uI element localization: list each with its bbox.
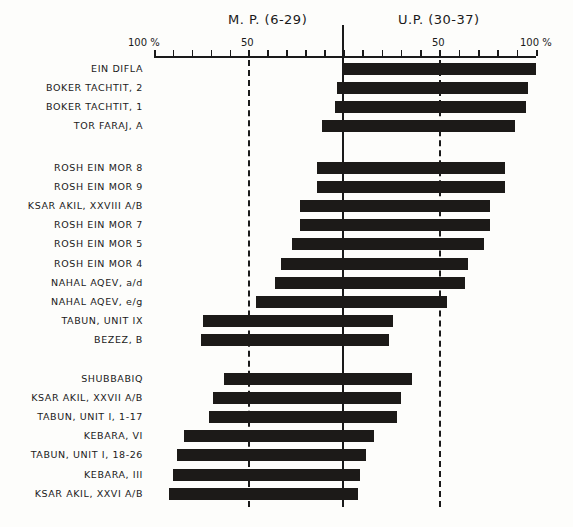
data-bar [322,120,515,132]
data-bar [169,488,358,500]
left-100-label: 100 % [128,37,160,48]
tick-mark [478,50,480,56]
row-label: TABUN, UNIT I, 1-17 [0,411,143,422]
data-bar [173,469,360,481]
data-bar [256,296,447,308]
right-50-label: 50 [432,37,445,48]
row-label: BEZEZ, B [0,334,143,345]
left-50-label: 50 [241,37,254,48]
row-label: ROSH EIN MOR 9 [0,181,143,192]
row-label: ROSH EIN MOR 5 [0,238,143,249]
row-label: TOR FARAJ, A [0,120,143,131]
tick-mark [305,50,307,56]
data-bar [184,430,374,442]
tick-mark [324,50,326,56]
row-label: KSAR AKIL, XXVIII A/B [0,200,143,211]
row-label: NAHAL AQEV, e/g [0,296,143,307]
data-bar [335,101,526,113]
row-label: KSAR AKIL, XXVI A/B [0,488,143,499]
data-bar [317,162,506,174]
data-bar [281,258,469,270]
data-bar [343,63,536,75]
tick-mark [362,50,364,56]
up-title: U.P. (30-37) [398,12,480,27]
row-label: EIN DIFLA [0,63,143,74]
data-bar [292,238,484,250]
data-bar [317,181,506,193]
tick-mark [267,50,269,56]
row-label: TABUN, UNIT IX [0,315,143,326]
data-bar [209,411,397,423]
row-label: BOKER TACHTIT, 2 [0,82,143,93]
tick-mark [286,50,288,56]
data-bar [201,334,389,346]
tick-mark [230,50,232,56]
row-label: ROSH EIN MOR 4 [0,258,143,269]
tick-mark [154,50,156,56]
tick-mark [536,50,538,56]
data-bar [337,82,528,94]
tick-mark [517,50,519,56]
data-bar [300,219,490,231]
row-label: KEBARA, III [0,469,143,480]
data-bar [177,449,366,461]
row-label: SHUBBABIQ [0,373,143,384]
axis-line [154,56,536,58]
tick-mark [173,50,175,56]
row-label: KSAR AKIL, XXVII A/B [0,392,143,403]
row-label: ROSH EIN MOR 7 [0,219,143,230]
tick-mark [211,50,213,56]
row-label: BOKER TACHTIT, 1 [0,101,143,112]
data-bar [224,373,413,385]
row-label: KEBARA, VI [0,430,143,441]
data-bar [275,277,465,289]
data-bar [213,392,401,404]
data-bar [203,315,393,327]
data-bar [300,200,490,212]
row-label: ROSH EIN MOR 8 [0,162,143,173]
row-label: TABUN, UNIT I, 18-26 [0,449,143,460]
tick-mark [497,50,499,56]
tick-mark [401,50,403,56]
mp-title: M. P. (6-29) [228,12,307,27]
tick-mark [459,50,461,56]
right-100-label: 100 % [520,37,552,48]
tick-mark [382,50,384,56]
tick-mark [192,50,194,56]
row-label: NAHAL AQEV, a/d [0,277,143,288]
tick-mark [420,50,422,56]
diverging-bar-chart: M. P. (6-29) U.P. (30-37) 100 % 50 50 10… [0,0,573,527]
